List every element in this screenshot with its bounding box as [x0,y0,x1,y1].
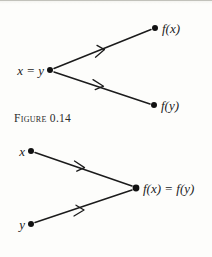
node-dot-y [28,221,34,227]
caption-number-value-014: 0.14 [50,112,71,124]
figure-0-15-diagram: x y f(x) = f(y) [0,131,212,257]
node-label-fx: f(x) [162,21,180,36]
figure-0-14-caption: Figure 0.14 [14,112,71,124]
node-dot-fy [151,102,157,108]
node-dot-fx [152,25,158,31]
edge-x-to-f [35,153,132,187]
node-label-y: y [17,217,25,232]
node-label-xy: x = y [16,63,44,78]
node-dot-xy [47,67,53,73]
figure-0-15: x y f(x) = f(y) Figure 0.15 [0,131,212,257]
edge-y-to-f [35,190,132,223]
scanned-figure-page: x = y f(x) f(y) Figure 0.14 x y f(x) = [0,0,212,257]
caption-word-014: Figure [14,112,47,124]
node-label-f: f(x) = f(y) [143,181,194,196]
node-dot-x [28,148,34,154]
figure-0-14: x = y f(x) f(y) Figure 0.14 [0,0,212,131]
edge-xy-to-fy [54,72,150,104]
node-label-x: x [18,144,25,159]
node-dot-f [133,185,140,192]
node-label-fy: f(y) [161,98,179,113]
